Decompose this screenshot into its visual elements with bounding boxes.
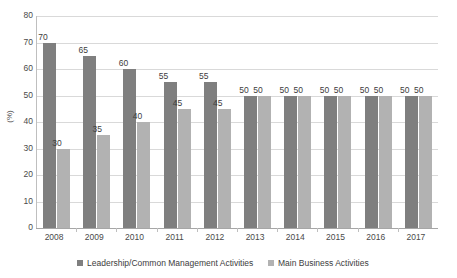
y-axis-tick-label: 60 <box>14 64 33 73</box>
bar-group: 5050 <box>398 16 438 228</box>
bar <box>379 96 392 229</box>
bar-value-label: 50 <box>325 86 351 95</box>
bar-group: 5545 <box>157 16 197 228</box>
bar-group: 5050 <box>237 16 277 228</box>
bar <box>137 122 150 228</box>
x-axis-tick-label: 2016 <box>356 232 396 242</box>
bar-value-label: 40 <box>124 112 150 121</box>
x-axis-tick-mark <box>197 228 198 232</box>
bar <box>405 96 418 229</box>
x-axis-tick-mark <box>358 228 359 232</box>
x-axis-tick-mark <box>76 228 77 232</box>
bar-value-label: 50 <box>366 86 392 95</box>
bar <box>244 96 257 229</box>
bar <box>43 43 56 229</box>
bar <box>419 96 432 229</box>
x-axis-tick-label: 2015 <box>315 232 355 242</box>
x-axis-tick-mark <box>116 228 117 232</box>
x-axis-tick-label: 2017 <box>396 232 436 242</box>
bar-group: 6535 <box>76 16 116 228</box>
legend-swatch-icon <box>268 260 274 266</box>
bar-value-label: 45 <box>165 99 191 108</box>
x-axis-tick-label: 2010 <box>114 232 154 242</box>
y-axis-tick-label: 40 <box>14 117 33 126</box>
y-axis-tick-label: 50 <box>14 91 33 100</box>
bar <box>83 56 96 228</box>
bar-value-label: 60 <box>110 59 136 68</box>
plot-area: 7030653560405545554550505050505050505050 <box>36 16 438 228</box>
y-axis-title: (%) <box>5 109 14 125</box>
bar-value-label: 50 <box>245 86 271 95</box>
x-axis-tick-mark <box>237 228 238 232</box>
bar-value-label: 45 <box>205 99 231 108</box>
bar-value-label: 35 <box>84 125 110 134</box>
bar-value-label: 50 <box>406 86 432 95</box>
bar-value-label: 30 <box>44 139 70 148</box>
x-axis-tick-label: 2009 <box>74 232 114 242</box>
bar <box>365 96 378 229</box>
y-axis-tick-label: 30 <box>14 144 33 153</box>
bar-value-label: 55 <box>151 72 177 81</box>
x-axis-tick-label: 2008 <box>34 232 74 242</box>
y-axis-tick-label: 20 <box>14 170 33 179</box>
x-axis-tick-label: 2013 <box>235 232 275 242</box>
bar-value-label: 50 <box>285 86 311 95</box>
bar <box>324 96 337 229</box>
legend-label: Main Business Activities <box>278 258 369 268</box>
x-axis-tick-label: 2012 <box>195 232 235 242</box>
x-axis-tick-label: 2011 <box>155 232 195 242</box>
y-axis-tick-label: 10 <box>14 197 33 206</box>
bar-value-label: 55 <box>191 72 217 81</box>
bar-value-label: 70 <box>30 33 56 42</box>
legend-label: Leadership/Common Management Activities <box>87 258 253 268</box>
bar-value-label: 65 <box>70 46 96 55</box>
bar <box>178 109 191 228</box>
y-axis-tick-label: 80 <box>14 11 33 20</box>
bar-group: 5545 <box>197 16 237 228</box>
bar-chart: (%) 80706050403020100 703065356040554555… <box>0 0 457 278</box>
legend-item[interactable]: Leadership/Common Management Activities <box>77 258 253 268</box>
bar-group: 5050 <box>317 16 357 228</box>
bar <box>218 109 231 228</box>
y-axis-tick-label: 0 <box>14 223 33 232</box>
legend-item[interactable]: Main Business Activities <box>268 258 369 268</box>
bar <box>123 69 136 228</box>
bar <box>298 96 311 229</box>
bar <box>338 96 351 229</box>
x-axis-tick-label: 2014 <box>275 232 315 242</box>
bar <box>57 149 70 229</box>
x-axis-tick-mark <box>317 228 318 232</box>
chart-legend: Leadership/Common Management ActivitiesM… <box>0 258 457 270</box>
x-axis-tick-mark <box>157 228 158 232</box>
bar-group: 6040 <box>116 16 156 228</box>
bar-group: 5050 <box>277 16 317 228</box>
legend-swatch-icon <box>77 260 83 266</box>
bar-group: 5050 <box>358 16 398 228</box>
x-axis-tick-mark <box>398 228 399 232</box>
bar <box>284 96 297 229</box>
x-axis-tick-mark <box>277 228 278 232</box>
bar <box>258 96 271 229</box>
bar <box>97 135 110 228</box>
